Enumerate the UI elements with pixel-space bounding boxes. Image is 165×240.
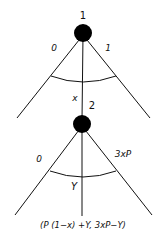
terminal-payoff: (P (1−x) +Y, 3xP−Y) [40,220,126,230]
node-1-group: 1 0 1 x [17,10,150,120]
node-1-decision-node [74,24,92,42]
node-2-right-branch [82,126,152,215]
node-1-left-branch [17,35,83,118]
node-2-decision-node [73,115,91,133]
node-2-left-branch-label: 0 [36,154,42,164]
game-tree-diagram: 1 0 1 x 2 0 3xP Y (P (1−x) +Y, 3xP−Y) [0,0,165,240]
node-1-left-branch-label: 0 [51,43,57,53]
node-1-right-branch-label: 1 [105,43,111,53]
node-2-left-branch [15,126,82,215]
node-2-continuum-label: Y [71,181,78,192]
node-2-continuum-arc [50,171,116,177]
node-2-label: 2 [89,100,95,111]
node-2-right-branch-label: 3xP [115,149,132,159]
node-1-continuum-arc [51,76,116,82]
node-1-continuum-label: x [71,93,78,103]
node-1-middle-branch [82,35,83,120]
node-1-label: 1 [80,10,86,21]
node-2-group: 2 0 3xP Y [15,100,152,216]
